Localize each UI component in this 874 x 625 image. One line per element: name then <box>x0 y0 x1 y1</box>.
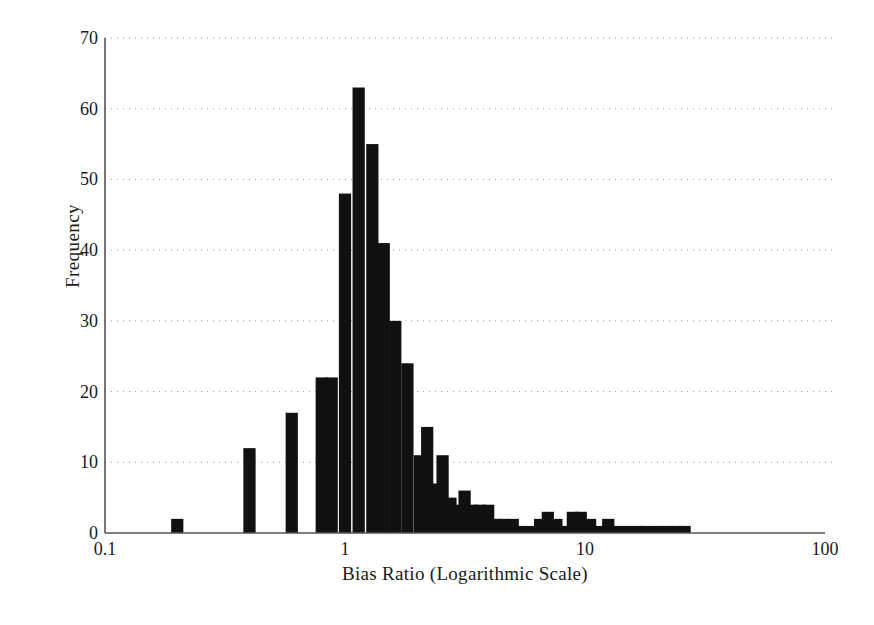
bars-group <box>171 88 691 534</box>
histogram-bar <box>243 448 255 533</box>
x-tick-label: 0.1 <box>65 540 145 558</box>
histogram-bar <box>171 519 183 533</box>
x-tick-label: 1 <box>305 540 385 558</box>
y-tick-label: 20 <box>52 383 98 401</box>
histogram-bar <box>378 243 390 533</box>
histogram-bar <box>339 194 351 533</box>
histogram-bar <box>389 321 401 533</box>
x-tick-label: 100 <box>785 540 865 558</box>
histogram-bar <box>401 363 413 533</box>
histogram-bar <box>353 88 365 534</box>
histogram-bar <box>286 413 298 533</box>
gridlines-group <box>105 38 837 462</box>
histogram-bar <box>515 526 527 533</box>
histogram-bar <box>678 526 690 533</box>
axis-lines-group <box>105 38 825 533</box>
histogram-plot-svg <box>0 0 874 625</box>
x-axis-title: Bias Ratio (Logarithmic Scale) <box>105 563 825 585</box>
histogram-bar <box>326 377 338 533</box>
histogram-bar <box>366 144 378 533</box>
y-axis-title: Frequency <box>62 176 90 316</box>
x-tick-label: 10 <box>545 540 625 558</box>
y-tick-label: 60 <box>52 100 98 118</box>
y-tick-label: 10 <box>52 453 98 471</box>
histogram-bar <box>640 526 652 533</box>
histogram-figure: 010203040506070 0.1110100 Frequency Bias… <box>0 0 874 625</box>
y-tick-label: 70 <box>52 29 98 47</box>
histogram-bar <box>610 526 622 533</box>
